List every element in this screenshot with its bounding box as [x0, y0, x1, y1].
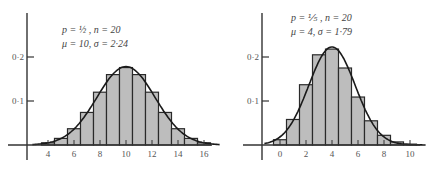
histogram-bar [287, 119, 300, 145]
x-tick-label: 6 [72, 149, 77, 159]
histogram-bar [159, 112, 172, 145]
right-chart-params: p = ⅕ , n = 20 μ = 4, σ = 1·79 [291, 11, 352, 39]
y-tick-label: 0·1 [12, 96, 24, 106]
x-tick-label: 10 [406, 149, 416, 159]
x-tick-label: 16 [200, 149, 210, 159]
x-tick-label: 4 [46, 149, 51, 159]
histogram-bar [81, 112, 94, 145]
x-tick-label: 6 [356, 149, 361, 159]
left-params-line1: p = ½ , n = 20 [62, 23, 128, 37]
x-tick-label: 0 [278, 149, 283, 159]
x-tick-label: 12 [148, 149, 157, 159]
left-chart-params: p = ½ , n = 20 μ = 10, σ = 2·24 [62, 23, 128, 51]
histogram-bar [120, 68, 133, 145]
y-tick-label: 0·1 [247, 96, 259, 106]
left-params-line2: μ = 10, σ = 2·24 [62, 37, 128, 51]
histogram-bar [107, 75, 120, 145]
x-tick-label: 8 [382, 149, 387, 159]
right-params-line2: μ = 4, σ = 1·79 [291, 25, 352, 39]
x-tick-label: 14 [174, 149, 184, 159]
histogram-bar [313, 55, 326, 145]
x-tick-label: 8 [98, 149, 103, 159]
y-tick-label: 0·2 [12, 52, 24, 62]
x-tick-label: 10 [122, 149, 132, 159]
x-tick-label: 4 [330, 149, 335, 159]
x-tick-label: 2 [304, 149, 309, 159]
histogram-bar [133, 75, 146, 145]
histogram-bar [365, 121, 378, 145]
y-tick-label: 0·2 [247, 52, 259, 62]
histogram-bar [339, 68, 352, 145]
right-params-line1: p = ⅕ , n = 20 [291, 11, 352, 25]
histogram-bar [326, 49, 339, 145]
